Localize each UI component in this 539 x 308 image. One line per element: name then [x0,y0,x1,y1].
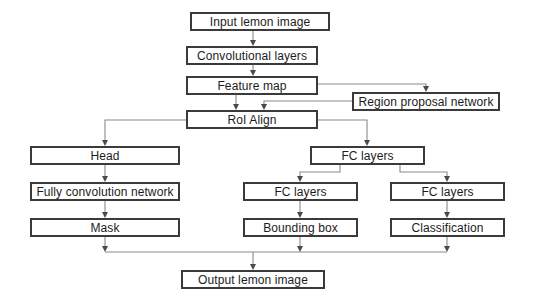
node-fc-layers-right[interactable]: FC layers [390,182,505,201]
node-label: FC layers [341,150,393,162]
node-roi-align[interactable]: RoI Align [186,110,318,129]
node-classification[interactable]: Classification [390,218,505,237]
node-bounding-box[interactable]: Bounding box [243,218,358,237]
node-label: Input lemon image [210,16,310,28]
node-label: RoI Align [228,114,277,126]
node-region-proposal-network[interactable]: Region proposal network [352,92,500,111]
edge-fctop-to-fcmid [300,165,340,178]
node-convolutional-layers[interactable]: Convolutional layers [186,46,318,65]
node-fc-layers-top[interactable]: FC layers [310,146,425,165]
node-mask[interactable]: Mask [30,218,180,237]
flowchart-canvas: Input lemon image Convolutional layers F… [0,0,539,308]
node-label: Feature map [217,80,286,92]
node-head[interactable]: Head [30,146,180,165]
node-output-lemon-image[interactable]: Output lemon image [181,270,325,289]
node-label: Classification [411,222,483,234]
edge-roialign-to-head [105,120,186,142]
node-label: FC layers [421,186,473,198]
arrowhead-bus-bbox [297,246,303,252]
edge-rpn-to-roialign [264,101,352,106]
node-feature-map[interactable]: Feature map [186,76,318,95]
edge-feature-to-rpn [318,84,426,88]
node-label: Convolutional layers [197,50,307,62]
node-label: FC layers [274,186,326,198]
node-fc-layers-middle[interactable]: FC layers [243,182,358,201]
node-input-lemon-image[interactable]: Input lemon image [190,12,330,31]
node-label: Bounding box [263,222,338,234]
node-fully-convolution-network[interactable]: Fully convolution network [30,182,180,201]
node-label: Head [90,150,119,162]
node-label: Output lemon image [198,274,308,286]
edge-roialign-to-fctop [318,120,367,142]
arrowhead-bus-mask [102,246,108,252]
node-label: Fully convolution network [36,186,173,198]
edge-fctop-to-fcright [400,165,447,178]
node-label: Mask [90,222,119,234]
node-label: Region proposal network [358,96,493,108]
arrowhead-bus-classify [444,246,450,252]
